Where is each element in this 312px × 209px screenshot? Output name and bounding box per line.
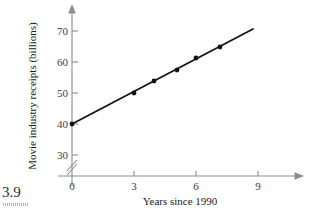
x-axis	[58, 172, 304, 180]
figure-container: 30 40 50 60 70 0 3 6 9 Movie industry re…	[0, 0, 312, 209]
scatter-plot: 30 40 50 60 70 0 3 6 9 Movie industry re…	[0, 0, 312, 209]
data-point	[132, 91, 137, 96]
y-tick-label-70: 70	[57, 25, 69, 37]
x-tick-label-9: 9	[255, 180, 261, 192]
y-tick-label-50: 50	[57, 87, 69, 99]
data-point	[152, 79, 157, 84]
data-point	[194, 56, 199, 61]
data-point	[218, 45, 223, 50]
y-tick-label-40: 40	[57, 118, 69, 130]
x-tick-label-6: 6	[193, 180, 199, 192]
x-axis-arrowhead	[295, 172, 305, 180]
x-axis-ticks	[134, 171, 258, 176]
data-point	[70, 122, 75, 127]
figure-corner-label: 3.9	[2, 184, 21, 201]
y-tick-label-60: 60	[57, 56, 69, 68]
y-axis-arrowhead	[68, 4, 76, 14]
y-axis-title: Movie industry receipts (billions)	[26, 22, 39, 170]
y-axis-ticks	[72, 31, 78, 155]
trend-line	[72, 29, 253, 124]
x-tick-label-3: 3	[131, 180, 137, 192]
x-tick-label-0: 0	[69, 180, 75, 192]
x-axis-title: Years since 1990	[143, 195, 218, 207]
dotted-underline-icon	[3, 203, 29, 206]
y-tick-label-30: 30	[57, 149, 69, 161]
data-point	[175, 68, 180, 73]
